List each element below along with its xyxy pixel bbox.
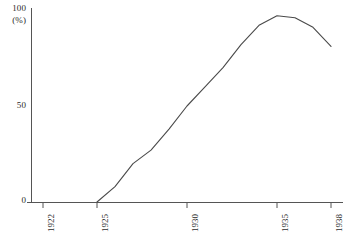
x-axis-label-1935: 1935 — [281, 214, 290, 232]
x-axis-label-1922: 1922 — [47, 214, 56, 232]
data-series-line — [97, 16, 331, 202]
y-axis-label-50: 50 — [0, 100, 26, 110]
x-axis-label-1930: 1930 — [191, 214, 200, 232]
y-axis-label-100: 100 — [0, 3, 26, 13]
chart-plot-area — [0, 0, 343, 234]
x-axis-label-1938: 1938 — [335, 214, 343, 232]
y-axis-unit-label: (%) — [0, 15, 26, 25]
y-axis-label-0: 0 — [0, 195, 26, 205]
line-chart: 100 (%) 50 0 19221925193019351938 — [0, 0, 343, 234]
x-axis-label-1925: 1925 — [101, 214, 110, 232]
